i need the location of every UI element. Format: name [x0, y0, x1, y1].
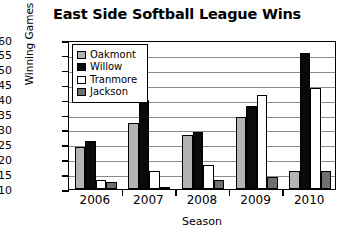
y-tick-label: 30 [0, 125, 12, 136]
legend-swatch-icon [77, 88, 86, 96]
legend-swatch-icon [77, 63, 86, 71]
x-tick-label: 2007 [118, 193, 178, 207]
bar-tranmore-2007 [149, 171, 160, 189]
bar-oakmont-2009 [236, 117, 247, 189]
bar-oakmont-2008 [182, 135, 193, 189]
y-tick-label: 55 [0, 50, 12, 61]
bar-willow-2009 [246, 106, 257, 189]
legend-label: Jackson [90, 87, 128, 97]
legend-swatch-icon [77, 51, 86, 59]
bar-tranmore-2010 [310, 88, 321, 189]
legend-label: Oakmont [90, 50, 136, 60]
y-axis-title: Winning Games [23, 0, 35, 104]
y-tick-label: 20 [0, 155, 12, 166]
bar-oakmont-2006 [75, 147, 86, 189]
bar-tranmore-2009 [257, 95, 268, 189]
x-tick-label: 2009 [226, 193, 286, 207]
bar-jackson-2009 [267, 177, 278, 189]
y-tick-label: 45 [0, 80, 12, 91]
bar-jackson-2006 [106, 182, 117, 189]
bar-willow-2006 [85, 141, 96, 189]
y-tick-label: 40 [0, 95, 12, 106]
bar-willow-2008 [193, 132, 204, 189]
bar-chart: East Side Softball League Wins Winning G… [0, 0, 354, 239]
bar-oakmont-2010 [289, 171, 300, 189]
legend-item-oakmont: Oakmont [77, 49, 143, 61]
legend-swatch-icon [77, 76, 86, 84]
legend-label: Willow [90, 62, 122, 72]
bar-oakmont-2007 [128, 123, 139, 189]
y-tick-label: 15 [0, 170, 12, 181]
y-tick-label: 25 [0, 140, 12, 151]
bar-willow-2007 [139, 100, 150, 189]
legend-item-jackson: Jackson [77, 86, 143, 98]
bar-tranmore-2006 [96, 180, 107, 189]
legend-item-tranmore: Tranmore [77, 74, 143, 86]
legend-item-willow: Willow [77, 61, 143, 73]
chart-title: East Side Softball League Wins [0, 6, 354, 22]
bar-jackson-2007 [160, 187, 171, 189]
y-tick-mark [62, 190, 69, 192]
x-tick-label: 2006 [65, 193, 125, 207]
y-tick-label: 60 [0, 36, 12, 47]
y-tick-label: 35 [0, 110, 12, 121]
y-tick-label: 50 [0, 65, 12, 76]
chart-legend: OakmontWillowTranmoreJackson [72, 44, 148, 103]
gridline [69, 117, 335, 118]
y-tick-label: 10 [0, 185, 12, 196]
legend-label: Tranmore [90, 75, 137, 85]
bar-tranmore-2008 [203, 165, 214, 189]
bar-jackson-2010 [321, 171, 332, 189]
x-tick-label: 2010 [279, 193, 339, 207]
bar-willow-2010 [300, 53, 311, 189]
x-tick-label: 2008 [172, 193, 232, 207]
bar-jackson-2008 [214, 180, 225, 189]
x-axis-title: Season [68, 215, 336, 228]
